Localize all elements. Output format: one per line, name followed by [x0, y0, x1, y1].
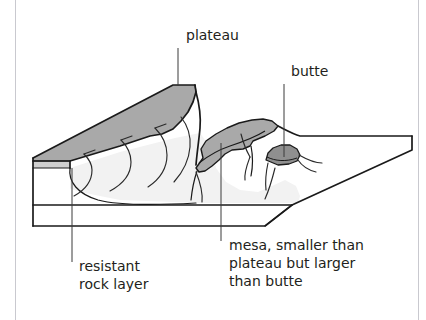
label-butte: butte — [291, 63, 328, 79]
diagram-canvas: plateau butte resistant rock layer mesa,… — [0, 0, 426, 320]
label-resistant-rock-layer-line-2: rock layer — [79, 276, 149, 292]
label-plateau: plateau — [186, 27, 239, 43]
landform-block — [33, 85, 412, 226]
figure-root: plateau butte resistant rock layer mesa,… — [0, 0, 426, 320]
label-mesa-line-1: mesa, smaller than — [229, 237, 364, 253]
plateau-caprock-left-edge — [33, 161, 70, 168]
label-mesa-line-2: plateau but larger — [229, 255, 356, 271]
label-resistant-rock-layer-line-1: resistant — [79, 258, 140, 274]
label-mesa-line-3: than butte — [229, 273, 303, 289]
